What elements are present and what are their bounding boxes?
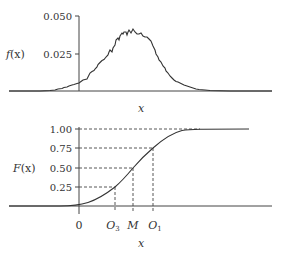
density-plot: 0.050 0.025 f(x) x [5, 11, 272, 115]
top-y-label: f(x) [5, 48, 25, 61]
cdf-plot: 1.00 0.75 0.50 0.25 F(x) 0 O3 M O1 x [9, 124, 272, 250]
x-tick-o3: O3 [106, 219, 120, 233]
bottom-tick-label-100: 1.00 [50, 124, 72, 135]
density-curve [9, 29, 272, 91]
top-tick-label-0025: 0.025 [43, 49, 72, 60]
x-tick-o1: O1 [148, 219, 162, 233]
top-x-label: x [138, 102, 145, 115]
x-tick-m: M [126, 219, 139, 232]
top-tick-label-0050: 0.050 [43, 11, 72, 22]
bottom-y-label: F(x) [12, 162, 35, 175]
bottom-tick-label-025: 0.25 [50, 182, 72, 193]
bottom-tick-label-075: 0.75 [50, 143, 72, 154]
bottom-x-label: x [138, 237, 145, 250]
chart-canvas: 0.050 0.025 f(x) x 1.00 0.75 0.50 0.25 F… [0, 0, 284, 255]
bottom-tick-label-050: 0.50 [50, 163, 72, 174]
cdf-curve [9, 129, 249, 206]
x-tick-zero: 0 [76, 219, 83, 232]
